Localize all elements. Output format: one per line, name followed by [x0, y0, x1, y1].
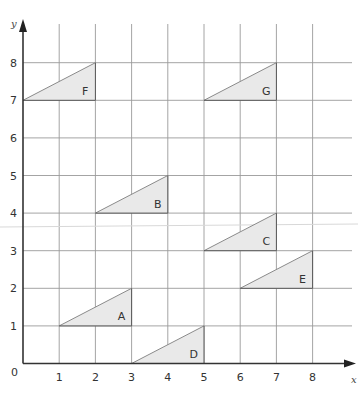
- x-tick-label: 3: [128, 371, 135, 384]
- triangle-label: B: [154, 198, 162, 211]
- scan-artifact-line: [0, 224, 358, 227]
- x-tick-label: 8: [309, 371, 316, 384]
- triangle-label: E: [299, 273, 306, 286]
- triangle-label: C: [262, 235, 270, 248]
- y-tick-label: 7: [10, 94, 17, 107]
- y-tick-label: 3: [10, 245, 17, 258]
- coordinate-grid: ABCDEFG x y 0 1234567812345678: [0, 0, 358, 396]
- y-tick-label: 6: [10, 132, 17, 145]
- y-axis-arrow-icon: [19, 19, 27, 32]
- x-axis-label: x: [351, 374, 357, 385]
- x-tick-label: 4: [164, 371, 171, 384]
- triangle-label: A: [118, 310, 126, 323]
- x-tick-label: 7: [273, 371, 280, 384]
- x-tick-label: 2: [92, 371, 99, 384]
- y-tick-label: 8: [10, 57, 17, 70]
- y-tick-label: 2: [10, 282, 17, 295]
- x-tick-label: 5: [201, 371, 208, 384]
- triangle-label: G: [262, 85, 271, 98]
- axes: x y 0: [10, 18, 357, 385]
- x-axis-arrow-icon: [344, 360, 356, 368]
- y-tick-label: 1: [10, 320, 17, 333]
- origin-label: 0: [11, 366, 18, 379]
- x-tick-label: 6: [237, 371, 244, 384]
- y-axis-label: y: [10, 18, 17, 29]
- x-tick-label: 1: [56, 371, 63, 384]
- triangle-label: F: [82, 85, 88, 98]
- y-tick-label: 4: [10, 207, 17, 220]
- y-tick-label: 5: [10, 170, 17, 183]
- triangle-label: D: [190, 348, 198, 361]
